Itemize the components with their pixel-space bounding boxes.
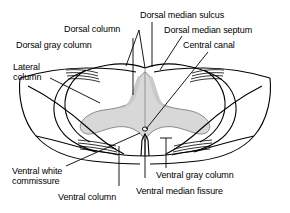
label-central-canal: Central canal xyxy=(183,40,235,50)
spinal-cord-diagram: Dorsal column Dorsal gray column Lateral… xyxy=(0,0,290,213)
label-ventral-column: Ventral column xyxy=(58,192,116,202)
label-lateral-column-line2: column xyxy=(13,72,41,82)
leader-dorsal-column-b xyxy=(139,30,145,68)
label-ventral-median-fissure: Ventral median fissure xyxy=(136,186,223,196)
label-dorsal-median-septum: Dorsal median septum xyxy=(164,25,252,35)
label-dorsal-column: Dorsal column xyxy=(64,24,120,34)
label-ventral-white-commissure-line2: commissure xyxy=(12,176,60,186)
label-lateral-column-line1: Lateral xyxy=(13,62,40,72)
label-ventral-white-commissure-line1: Ventral white xyxy=(12,166,62,176)
label-dorsal-gray-column: Dorsal gray column xyxy=(16,40,92,50)
leader-ventral-white-commissure xyxy=(66,133,140,166)
leader-lateral-column xyxy=(50,78,100,103)
label-ventral-gray-column: Ventral gray column xyxy=(156,170,234,180)
label-dorsal-median-sulcus: Dorsal median sulcus xyxy=(140,10,224,20)
leader-dorsal-column-a xyxy=(126,30,139,66)
